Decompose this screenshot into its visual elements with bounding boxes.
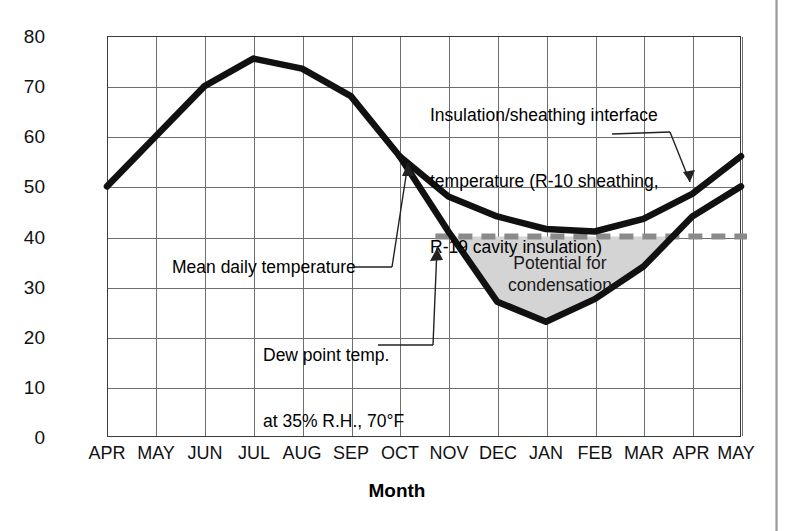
x-tick-apr-2: APR <box>667 443 715 463</box>
y-tick-50: 50 <box>5 177 45 196</box>
annotation-condensation-line1: Potential for <box>470 252 650 274</box>
annotation-condensation-line2: condensation <box>470 274 650 296</box>
y-tick-30: 30 <box>5 278 45 297</box>
x-tick-jul: JUL <box>230 443 278 463</box>
x-tick-nov: NOV <box>425 443 473 463</box>
x-axis-title: Month <box>0 480 794 502</box>
page-edge-artifact <box>775 0 778 531</box>
gridline-v-12 <box>693 37 694 436</box>
y-tick-40: 40 <box>5 228 45 247</box>
x-tick-jun: JUN <box>181 443 229 463</box>
y-tick-20: 20 <box>5 328 45 347</box>
x-tick-aug: AUG <box>278 443 326 463</box>
gridline-v-1 <box>156 37 157 436</box>
y-tick-60: 60 <box>5 127 45 146</box>
x-tick-apr-1: APR <box>83 443 131 463</box>
gridline-v-3 <box>254 37 255 436</box>
annotation-interface-line2: temperature (R-10 sheathing, <box>430 170 659 192</box>
annotation-dew-point-line2: at 35% R.H., 70°F <box>263 410 404 432</box>
x-tick-dec: DEC <box>474 443 522 463</box>
annotation-condensation: Potential for condensation <box>470 252 650 296</box>
x-tick-may-1: MAY <box>132 443 180 463</box>
y-tick-70: 70 <box>5 77 45 96</box>
gridline-h-20 <box>108 338 740 339</box>
gridline-v-13 <box>742 37 743 436</box>
annotation-dew-point-line1: Dew point temp. <box>263 344 404 366</box>
x-tick-mar: MAR <box>620 443 668 463</box>
y-tick-0: 0 <box>5 428 45 447</box>
chart-canvas: Temperature (°F) 80 70 60 50 40 30 20 10… <box>0 0 794 531</box>
y-tick-80: 80 <box>5 27 45 46</box>
x-tick-oct: OCT <box>376 443 424 463</box>
x-tick-jan: JAN <box>522 443 570 463</box>
x-tick-feb: FEB <box>571 443 619 463</box>
y-tick-10: 10 <box>5 378 45 397</box>
x-tick-may-2: MAY <box>712 443 760 463</box>
annotation-mean-daily-temperature: Mean daily temperature <box>172 256 356 278</box>
x-tick-sep: SEP <box>327 443 375 463</box>
gridline-v-2 <box>205 37 206 436</box>
annotation-interface-line1: Insulation/sheathing interface <box>430 104 659 126</box>
gridline-h-10 <box>108 388 740 389</box>
